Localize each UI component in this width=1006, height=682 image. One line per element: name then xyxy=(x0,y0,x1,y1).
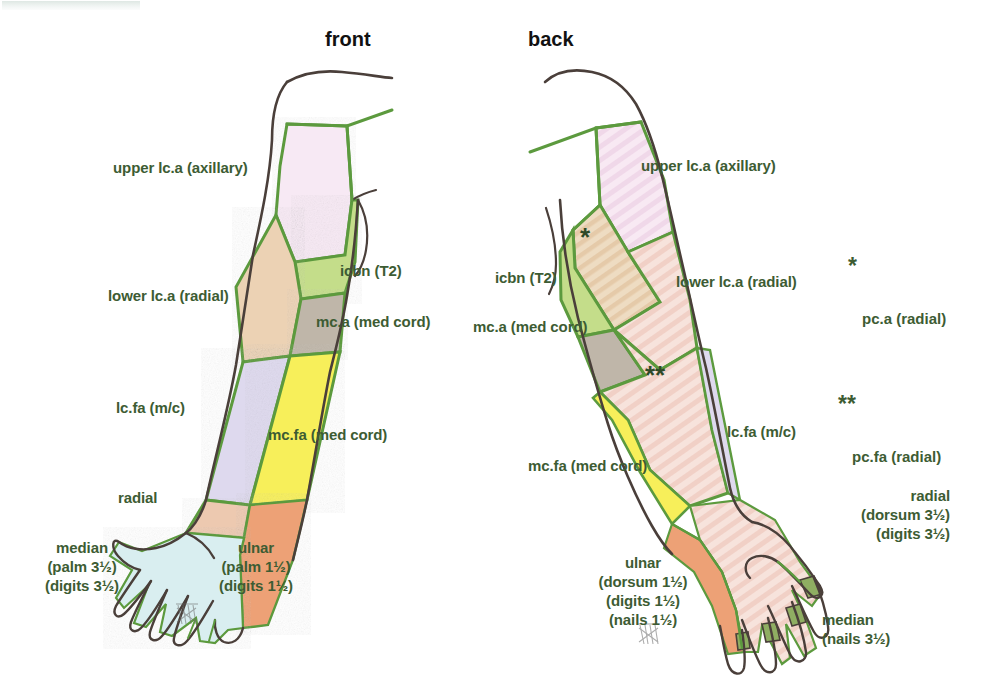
legend-item-pca: * pc.a (radial) xyxy=(848,222,946,363)
legend-text-pcfa: pc.fa (radial) xyxy=(838,448,941,465)
figure-mark-single-star: * xyxy=(580,222,590,253)
back-label-ulnar: ulnar (dorsum 1½) (digits 1½) (nails 1½) xyxy=(568,553,718,629)
front-arm-outline-medial xyxy=(287,71,392,82)
back-label-lcfa: lc.fa (m/c) xyxy=(727,422,796,441)
view-title-front: front xyxy=(325,28,371,51)
back-label-mca: mc.a (med cord) xyxy=(473,317,587,336)
back-label-upper-lca: upper lc.a (axillary) xyxy=(641,156,776,175)
front-label-radial: radial xyxy=(118,488,157,507)
front-label-median: median (palm 3½) (digits 3½) xyxy=(22,538,142,595)
view-title-back: back xyxy=(528,28,574,51)
legend-item-pcfa: ** pc.fa (radial) xyxy=(838,360,941,501)
front-boundary-leader-shoulder xyxy=(287,110,392,126)
back-label-lower-lca: lower lc.a (radial) xyxy=(676,272,797,291)
front-label-mca: mc.a (med cord) xyxy=(316,312,430,331)
back-label-median: median (nails 3½) xyxy=(822,610,890,648)
front-upper-ink-tick xyxy=(352,190,376,200)
figure-mark-double-star: ** xyxy=(645,360,665,391)
legend-marker-double-star: ** xyxy=(838,396,941,412)
front-label-ulnar: ulnar (palm 1½) (digits 1½) xyxy=(196,538,316,595)
back-label-mcfa: mc.fa (med cord) xyxy=(528,456,647,475)
front-label-upper-lca: upper lc.a (axillary) xyxy=(113,158,248,177)
front-label-lower-lca: lower lc.a (radial) xyxy=(108,286,229,305)
front-label-icbn: icbn (T2) xyxy=(340,261,402,280)
front-label-mcfa: mc.fa (med cord) xyxy=(268,425,387,444)
figure-canvas: front back upper lc.a (axillary) lower l… xyxy=(0,0,1006,682)
front-region-radial xyxy=(186,500,250,538)
legend-marker-single-star: * xyxy=(848,258,946,274)
front-label-lcfa: lc.fa (m/c) xyxy=(116,398,185,417)
legend-text-pca: pc.a (radial) xyxy=(848,310,946,327)
back-label-icbn: icbn (T2) xyxy=(495,268,557,287)
